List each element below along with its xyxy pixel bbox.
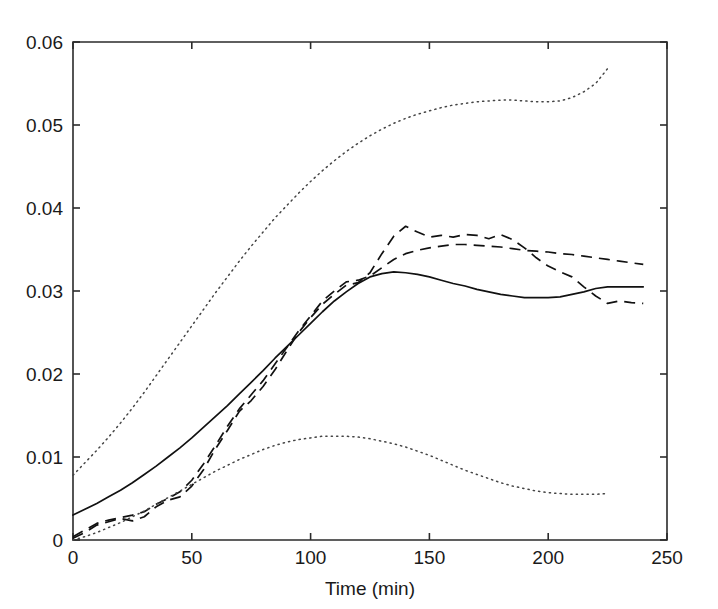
data-series-group	[73, 69, 643, 540]
y-tick-label-5: 0.05	[26, 115, 63, 136]
x-tick-label-1: 50	[181, 547, 202, 568]
axes-box	[73, 42, 667, 540]
x-tick-label-4: 200	[532, 547, 564, 568]
y-tick-label-0: 0	[52, 530, 63, 551]
y-axis-ticks	[73, 42, 667, 540]
line-chart: 050100150200250 00.010.020.030.040.050.0…	[0, 0, 718, 609]
x-axis-title: Time (min)	[325, 578, 415, 599]
x-axis-tick-labels: 050100150200250	[68, 547, 683, 568]
y-axis-tick-labels: 00.010.020.030.040.050.06	[26, 32, 63, 551]
series-lower-confidence-bound	[73, 436, 608, 540]
x-tick-label-2: 100	[295, 547, 327, 568]
y-tick-label-3: 0.03	[26, 281, 63, 302]
axes-frame	[73, 42, 667, 540]
series-model-mean	[73, 272, 643, 515]
y-tick-label-1: 0.01	[26, 447, 63, 468]
x-tick-label-3: 150	[414, 547, 446, 568]
x-tick-label-0: 0	[68, 547, 79, 568]
y-tick-label-2: 0.02	[26, 364, 63, 385]
series-experiment-run-1	[73, 226, 643, 538]
y-tick-label-6: 0.06	[26, 32, 63, 53]
x-axis-ticks	[73, 42, 667, 540]
x-tick-label-5: 250	[651, 547, 683, 568]
series-upper-confidence-bound	[73, 69, 608, 476]
y-tick-label-4: 0.04	[26, 198, 63, 219]
series-experiment-run-2	[73, 245, 643, 537]
figure-canvas: 050100150200250 00.010.020.030.040.050.0…	[0, 0, 718, 609]
